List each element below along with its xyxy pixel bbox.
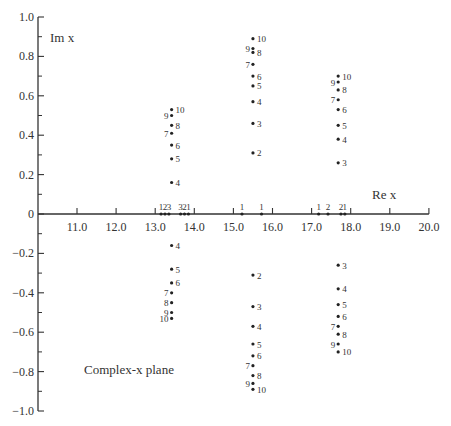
data-point [326, 212, 329, 215]
point-label: 5 [257, 340, 262, 350]
point-label: 8 [342, 85, 347, 95]
data-point [170, 132, 173, 135]
data-point [170, 291, 173, 294]
point-label: 5 [342, 300, 347, 310]
point-label: 7 [331, 322, 336, 332]
point-label: 10 [257, 34, 267, 44]
point-label: 9 [245, 379, 250, 389]
point-label: 7 [245, 361, 250, 371]
point-label: 2 [326, 202, 331, 212]
y-tick-label: 1.0 [19, 10, 34, 24]
point-label: 6 [176, 278, 181, 288]
y-tick-label: −0.8 [12, 365, 34, 379]
point-label: 5 [342, 121, 347, 131]
point-label: 2 [257, 148, 262, 158]
point-label: 8 [257, 371, 262, 381]
y-tick-label: 0.8 [19, 49, 34, 63]
data-point [251, 47, 254, 50]
data-point [317, 212, 320, 215]
x-tick-label: 12.0 [106, 220, 127, 234]
point-label: 2 [257, 271, 262, 281]
point-label: 4 [257, 97, 262, 107]
point-label: 5 [176, 154, 181, 164]
data-point [251, 364, 254, 367]
data-point [251, 388, 254, 391]
point-label: 1 [240, 202, 245, 212]
y-tick-label: 0.4 [19, 128, 34, 142]
data-point [343, 212, 346, 215]
data-point [337, 350, 340, 353]
y-axis-label: Im x [50, 30, 75, 45]
x-axis-label: Re x [372, 187, 397, 202]
data-point [170, 157, 173, 160]
data-point [337, 325, 340, 328]
data-point [170, 311, 173, 314]
data-point [170, 301, 173, 304]
point-label: 3 [257, 119, 262, 129]
point-label: 10 [160, 314, 170, 324]
y-tick-label: −0.4 [12, 286, 34, 300]
data-point [170, 317, 173, 320]
point-label: 6 [257, 351, 262, 361]
x-tick-label: 11.0 [67, 220, 88, 234]
point-label: 6 [342, 312, 347, 322]
complex-plane-chart: 1.00.80.60.40.20−0.2−0.4−0.6−0.8−1.011.0… [0, 0, 451, 426]
point-label: 4 [342, 135, 347, 145]
point-label: 7 [164, 129, 169, 139]
data-point [170, 268, 173, 271]
data-point [251, 325, 254, 328]
x-tick-label: 14.0 [184, 220, 205, 234]
data-point [240, 212, 243, 215]
data-point [251, 84, 254, 87]
point-label: 1 [316, 202, 321, 212]
data-point [251, 305, 254, 308]
data-point [337, 75, 340, 78]
data-point [251, 122, 254, 125]
data-point [163, 212, 166, 215]
data-point [339, 212, 342, 215]
x-tick-label: 20.0 [418, 220, 439, 234]
data-point [251, 100, 254, 103]
data-point [251, 37, 254, 40]
point-label: 9 [245, 44, 250, 54]
point-label: 8 [164, 298, 169, 308]
point-label: 10 [257, 385, 267, 395]
point-label: 4 [257, 322, 262, 332]
point-label: 8 [176, 121, 181, 131]
point-label: 1 [259, 202, 264, 212]
point-label: 3 [342, 158, 347, 168]
point-label: 9 [331, 78, 336, 88]
data-point [251, 342, 254, 345]
x-tick-label: 18.0 [340, 220, 361, 234]
data-point [337, 342, 340, 345]
data-point [170, 114, 173, 117]
point-label: 10 [342, 72, 352, 82]
point-label: 1 [186, 202, 191, 212]
x-tick-label: 16.0 [262, 220, 283, 234]
data-point [179, 212, 182, 215]
data-point [159, 212, 162, 215]
point-label: 6 [176, 141, 181, 151]
point-label: 10 [176, 105, 186, 115]
data-point [170, 281, 173, 284]
point-label: 4 [176, 178, 181, 188]
data-point [251, 63, 254, 66]
point-label: 4 [176, 241, 181, 251]
data-point [170, 181, 173, 184]
data-point [337, 80, 340, 83]
x-tick-label: 15.0 [223, 220, 244, 234]
point-label: 7 [245, 60, 250, 70]
data-point [337, 303, 340, 306]
point-label: 9 [331, 340, 336, 350]
data-point [251, 354, 254, 357]
data-point [251, 75, 254, 78]
point-label: 4 [342, 284, 347, 294]
data-point [251, 382, 254, 385]
data-point [170, 124, 173, 127]
y-tick-label: 0.2 [19, 168, 34, 182]
data-point [251, 374, 254, 377]
x-tick-label: 19.0 [379, 220, 400, 234]
point-label: 8 [342, 330, 347, 340]
data-point [251, 273, 254, 276]
data-point [337, 264, 340, 267]
